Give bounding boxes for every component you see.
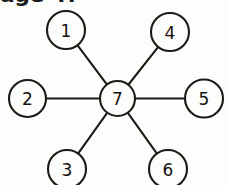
node-label-2: 2: [22, 89, 33, 109]
node-group: 1 2 3 4 5 6: [9, 11, 223, 185]
edge-hub-to-node-4: [128, 47, 158, 85]
node-label-6: 6: [163, 160, 174, 180]
graph-node-4[interactable]: 4: [151, 13, 189, 51]
graph-node-hub[interactable]: 7: [100, 81, 135, 116]
edge-hub-to-node-3: [78, 113, 107, 154]
edge-hub-to-node-6: [128, 113, 157, 154]
graph-node-3[interactable]: 3: [48, 150, 86, 185]
graph-node-1[interactable]: 1: [47, 11, 85, 49]
node-label-4: 4: [165, 23, 176, 43]
node-label-hub: 7: [112, 89, 123, 109]
node-label-1: 1: [61, 21, 72, 41]
node-label-5: 5: [199, 89, 210, 109]
edge-hub-to-node-1: [77, 45, 107, 84]
graph-node-5[interactable]: 5: [185, 80, 223, 118]
diagram-page: age 4? 1 2 3 4: [0, 0, 229, 185]
star-graph: 1 2 3 4 5 6: [0, 0, 229, 185]
graph-node-2[interactable]: 2: [9, 80, 46, 117]
node-label-3: 3: [62, 160, 73, 180]
graph-node-6[interactable]: 6: [149, 150, 187, 185]
